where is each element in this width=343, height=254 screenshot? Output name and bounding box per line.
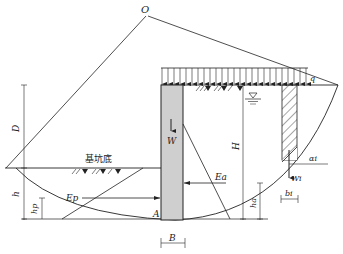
slice-weight-label: Wi bbox=[291, 174, 302, 183]
hp-label: hp bbox=[30, 204, 39, 214]
wall-weight-label: W bbox=[167, 136, 177, 146]
toe-point-label: A bbox=[152, 209, 160, 219]
ha-label: ha bbox=[249, 198, 258, 208]
water-table-icon bbox=[245, 93, 261, 104]
passive-force-label: Ep bbox=[65, 193, 79, 203]
ground-markers bbox=[205, 86, 243, 91]
wall-height-label: H bbox=[231, 142, 241, 151]
center-label: O bbox=[141, 4, 149, 15]
h-label: h bbox=[11, 191, 21, 197]
hp-dimension bbox=[39, 198, 45, 219]
ground-hatch bbox=[196, 86, 232, 91]
wall-width-label: B bbox=[168, 233, 176, 243]
embedment-depth-label: D bbox=[11, 125, 21, 133]
radius-line-left bbox=[6, 16, 146, 168]
active-force-label: Ea bbox=[214, 172, 227, 182]
slope-stability-diagram: O bbox=[0, 0, 343, 254]
surcharge-load: q bbox=[161, 68, 315, 84]
excavation-hatch bbox=[72, 169, 112, 174]
wall-height-dimension bbox=[240, 85, 246, 220]
excavation-bottom-label: 基坑底 bbox=[85, 153, 112, 164]
surcharge-label: q bbox=[310, 74, 315, 83]
slice-width-label: bi bbox=[285, 189, 293, 198]
slice-angle-label: αi bbox=[309, 154, 317, 163]
retaining-wall bbox=[161, 85, 183, 220]
left-dimension bbox=[21, 85, 27, 220]
